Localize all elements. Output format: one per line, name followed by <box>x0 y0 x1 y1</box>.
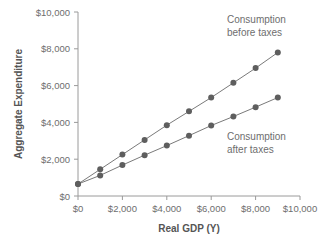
x-tick-label-1: $2,000 <box>108 203 137 214</box>
data-point <box>275 95 281 101</box>
x-tick-label-3: $6,000 <box>197 203 226 214</box>
y-tick-label-3: $6,000 <box>41 80 70 91</box>
annotation-after-taxes-line2: after taxes <box>227 144 274 155</box>
x-tick-label-2: $4,000 <box>152 203 181 214</box>
series-consumption-before-taxes <box>75 49 281 187</box>
data-point <box>142 152 148 158</box>
chart-figure: $0 $2,000 $4,000 $6,000 $8,000 $10,000 $… <box>0 0 328 246</box>
annotation-after-taxes: Consumption after taxes <box>227 131 286 155</box>
data-point <box>97 166 103 172</box>
data-point <box>230 114 236 120</box>
data-point <box>208 123 214 129</box>
data-point <box>164 143 170 149</box>
data-point <box>208 95 214 101</box>
data-point <box>230 80 236 86</box>
x-tick-label-5: $10,000 <box>283 203 317 214</box>
y-tick-label-0: $0 <box>59 191 70 202</box>
data-point <box>164 122 170 128</box>
data-point <box>97 172 103 178</box>
x-tick-label-0: $0 <box>73 203 84 214</box>
y-tick-label-5: $10,000 <box>36 7 70 18</box>
series-line-before-taxes <box>78 52 278 184</box>
data-point <box>253 65 259 71</box>
y-tick-label-1: $2,000 <box>41 154 70 165</box>
annotation-before-taxes-line1: Consumption <box>227 14 286 25</box>
y-tick-label-2: $4,000 <box>41 117 70 128</box>
annotation-before-taxes-line2: before taxes <box>227 27 282 38</box>
annotation-before-taxes: Consumption before taxes <box>227 14 286 38</box>
x-axis-title: Real GDP (Y) <box>158 223 220 234</box>
data-point <box>75 181 81 187</box>
data-point <box>119 162 125 168</box>
annotation-after-taxes-line1: Consumption <box>227 131 286 142</box>
data-point <box>142 137 148 143</box>
x-tick-label-4: $8,000 <box>241 203 270 214</box>
data-point <box>186 108 192 114</box>
y-axis-title: Aggregate Expenditure <box>13 49 24 159</box>
data-point <box>253 104 259 110</box>
y-tick-label-4: $8,000 <box>41 43 70 54</box>
data-point <box>186 133 192 139</box>
line-chart-svg: $0 $2,000 $4,000 $6,000 $8,000 $10,000 $… <box>0 0 328 246</box>
data-point <box>119 152 125 158</box>
data-point <box>275 49 281 55</box>
